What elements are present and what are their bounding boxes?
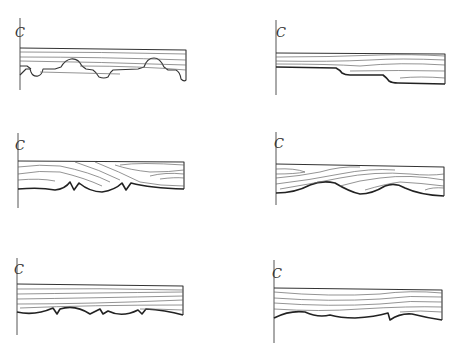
profile-panel-3: C [15, 133, 184, 208]
centerline-label: C [15, 25, 25, 40]
diagram-canvas: C C C C [0, 0, 462, 349]
centerline-label: C [272, 266, 282, 281]
profile-panel-4: C [274, 132, 444, 205]
profile-panel-1: C [15, 18, 186, 90]
centerline-label: C [276, 25, 286, 40]
profile-panel-6: C [272, 260, 442, 343]
centerline-label: C [15, 138, 25, 153]
centerline-label: C [274, 136, 284, 151]
profile-panel-5: C [14, 258, 183, 335]
centerline-label: C [14, 262, 24, 277]
profile-panel-2: C [276, 20, 445, 95]
